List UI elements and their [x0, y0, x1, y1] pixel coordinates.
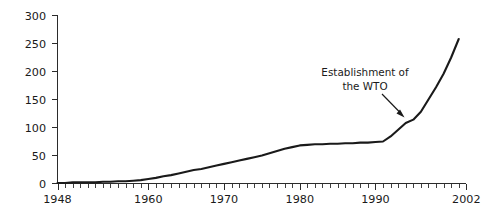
x-tick-label: 1970: [210, 193, 238, 206]
y-tick-label: 50: [32, 150, 46, 163]
y-tick-label: 250: [25, 38, 46, 51]
x-tick-label: 1948: [43, 193, 71, 206]
y-tick-label: 150: [25, 94, 46, 107]
y-tick-label: 200: [25, 66, 46, 79]
x-axis-tick-labels: 1948 1960 1970 1980 1990 2002: [43, 193, 480, 206]
chart-figure: 300 250 200 150 100 50 0 1948 1960 1970 …: [0, 0, 493, 219]
annotation-line-1: Establishment of: [321, 66, 409, 78]
line-chart: 300 250 200 150 100 50 0 1948 1960 1970 …: [0, 0, 493, 219]
annotation-arrow-icon: [382, 94, 405, 118]
x-tick-label: 2002: [452, 193, 480, 206]
annotation-establishment-wto: Establishment of the WTO: [321, 66, 409, 92]
annotation-line-2: the WTO: [342, 80, 387, 92]
y-axis-ticks: [52, 16, 57, 184]
y-tick-label: 0: [39, 178, 46, 191]
x-tick-label: 1960: [134, 193, 162, 206]
x-tick-label: 1980: [286, 193, 314, 206]
x-tick-label: 1990: [361, 193, 389, 206]
y-tick-label: 100: [25, 122, 46, 135]
y-tick-label: 300: [25, 10, 46, 23]
y-axis-tick-labels: 300 250 200 150 100 50 0: [25, 10, 46, 191]
